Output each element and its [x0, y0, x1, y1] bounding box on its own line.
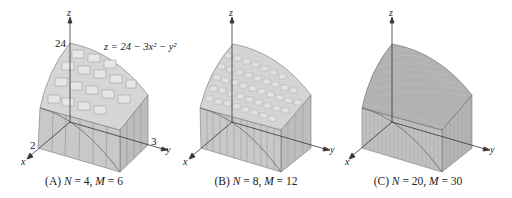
y-tick-label: 3 — [151, 135, 157, 147]
caption-c: (C) N = 20, M = 30 — [338, 175, 498, 187]
y-axis-label: y — [165, 144, 171, 155]
x-axis-label: x — [20, 156, 26, 167]
panel-b: z x y — [182, 7, 335, 172]
y-axis-label: y — [329, 144, 335, 155]
n-value: 20 — [412, 175, 424, 187]
caption-b: (B) N = 8, M = 12 — [176, 175, 336, 187]
caption-prefix: (C) — [374, 175, 392, 187]
panel-c: z x y — [344, 7, 495, 172]
caption-prefix: (B) — [215, 175, 233, 187]
n-label: N — [233, 175, 241, 187]
riemann-sum-figure: z x y 24 2 3 z = 24 − 3x² − y² — [0, 0, 512, 198]
x-tick-label: 2 — [30, 139, 36, 151]
n-value: 4 — [84, 175, 90, 187]
panel-a: z x y 24 2 3 z = 24 − 3x² − y² — [20, 7, 177, 172]
m-value: 6 — [117, 175, 123, 187]
n-label: N — [392, 175, 400, 187]
m-label: M — [264, 175, 274, 187]
y-axis-label: y — [489, 144, 495, 155]
m-label: M — [95, 175, 105, 187]
x-axis-label: x — [344, 156, 350, 167]
n-label: N — [64, 175, 72, 187]
z-axis-label: z — [388, 7, 393, 18]
caption-a: (A) N = 4, M = 6 — [4, 175, 164, 187]
caption-prefix: (A) — [45, 175, 64, 187]
m-value: 30 — [451, 175, 463, 187]
z-max-label: 24 — [55, 37, 67, 49]
x-axis-label: x — [182, 156, 188, 167]
z-axis-label: z — [228, 7, 233, 18]
n-value: 8 — [253, 175, 259, 187]
z-axis-label: z — [66, 7, 71, 18]
m-label: M — [429, 175, 439, 187]
m-value: 12 — [286, 175, 298, 187]
equation-label: z = 24 − 3x² − y² — [103, 41, 177, 52]
